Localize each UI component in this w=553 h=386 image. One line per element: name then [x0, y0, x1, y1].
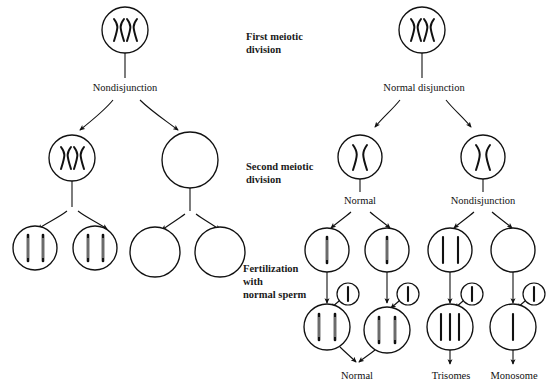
right-split-arrow-1 — [375, 100, 400, 127]
right-first-division-label: Normal disjunction — [383, 82, 465, 93]
left-split-arrow-1 — [80, 100, 113, 130]
right-gamete-3 — [428, 228, 472, 272]
meiosis-diagram: First meiotic division Second meiotic di… — [0, 0, 553, 386]
right-gamete-1 — [305, 228, 349, 272]
left-first-division-label: Nondisjunction — [93, 82, 158, 93]
sperm-4 — [523, 283, 545, 305]
stage-label-line-2: division — [246, 174, 281, 185]
left-parent-cell — [102, 7, 148, 53]
left-gamete-arrow-1 — [38, 211, 67, 229]
stage-label-line-3: normal sperm — [243, 289, 307, 300]
right-gamete-arrow-4 — [492, 212, 512, 228]
outcome-label-normal: Normal — [341, 370, 373, 381]
outcome-label-trisomes: Trisomes — [432, 370, 471, 381]
outcome-arrow-1 — [340, 347, 356, 362]
left-gamete-1 — [13, 226, 57, 270]
stage-label-second-meiotic-division: Second meiotic division — [246, 161, 314, 185]
stage-label-line-1: Fertilization — [243, 263, 299, 274]
sperm-1 — [337, 283, 359, 305]
right-secondary-cell-1 — [338, 135, 382, 179]
right-second-division-label-2: Nondisjunction — [451, 195, 516, 206]
right-second-division-label-1: Normal — [344, 195, 376, 206]
outcome-arrow-2 — [359, 350, 375, 362]
left-secondary-cell-1 — [49, 135, 95, 181]
outcome-label-monosome: Monosome — [490, 370, 538, 381]
right-gamete-2 — [365, 228, 409, 272]
right-gamete-arrow-2 — [370, 212, 390, 228]
zygote-2 — [364, 307, 410, 353]
stage-label-line-2: division — [246, 44, 281, 55]
right-secondary-cell-2 — [461, 135, 505, 179]
sperm-2 — [397, 283, 419, 305]
right-gamete-4 — [491, 228, 535, 272]
left-split-arrow-2 — [140, 100, 178, 130]
right-gamete-arrow-1 — [331, 212, 351, 228]
left-gamete-3 — [130, 227, 180, 277]
right-parent-cell — [399, 7, 445, 53]
stage-label-line-2: with — [243, 276, 263, 287]
left-gamete-4 — [195, 227, 245, 277]
zygote-3 — [427, 304, 473, 350]
left-gamete-arrow-3 — [162, 214, 185, 230]
stage-label-first-meiotic-division: First meiotic division — [246, 31, 303, 55]
right-split-arrow-2 — [446, 100, 471, 127]
zygote-4 — [490, 304, 536, 350]
left-gamete-2 — [73, 226, 117, 270]
sperm-3 — [461, 283, 483, 305]
zygote-1 — [304, 304, 350, 350]
stage-label-fertilization: Fertilization with normal sperm — [243, 263, 307, 300]
figure-canvas: First meiotic division Second meiotic di… — [0, 0, 553, 386]
right-gamete-arrow-3 — [454, 212, 474, 228]
stage-label-line-1: First meiotic — [246, 31, 303, 42]
stage-label-line-1: Second meiotic — [246, 161, 314, 172]
left-secondary-cell-2 — [162, 132, 218, 188]
